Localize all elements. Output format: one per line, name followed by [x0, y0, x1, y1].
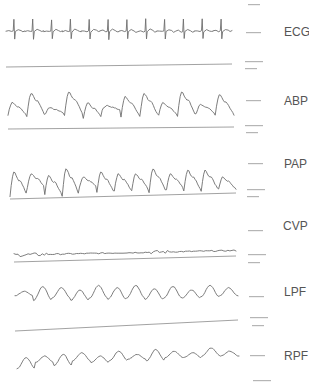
trace-pap	[10, 169, 236, 197]
scale-annotation-mark	[252, 325, 264, 326]
scale-annotation-mark	[246, 132, 258, 133]
channel-label-pap: PAP	[284, 157, 307, 171]
annotations-group	[245, 4, 271, 381]
scale-annotation-mark	[250, 317, 268, 318]
scale-annotation-mark	[248, 4, 260, 5]
channel-label-cvp: CVP	[283, 219, 308, 233]
scale-annotation-mark	[253, 380, 271, 381]
trace-lpf	[15, 285, 238, 300]
baseline-abp	[8, 127, 234, 129]
baseline-pap	[10, 193, 236, 199]
scale-annotation-mark	[248, 254, 266, 255]
baselines-group	[6, 64, 238, 331]
scale-annotation-mark	[246, 32, 261, 33]
channel-label-lpf: LPF	[284, 285, 306, 299]
trace-abp	[8, 92, 234, 118]
scale-annotation-mark	[245, 61, 263, 62]
trace-cvp	[14, 250, 236, 257]
scale-annotation-mark	[245, 68, 257, 69]
channel-label-rpf: RPF	[284, 349, 308, 363]
scale-annotation-mark	[249, 296, 264, 297]
baseline-ecg	[6, 64, 232, 67]
trace-rpf	[17, 348, 239, 369]
baseline-lpf	[15, 320, 238, 331]
scale-annotation-mark	[248, 262, 260, 263]
trace-ecg	[6, 19, 232, 40]
channel-label-ecg: ECG	[284, 25, 309, 39]
scale-annotation-mark	[245, 125, 263, 126]
channel-label-abp: ABP	[284, 94, 308, 108]
baseline-cvp	[14, 256, 236, 262]
scale-annotation-mark	[248, 230, 263, 231]
scale-annotation-mark	[247, 196, 259, 197]
scale-annotation-mark	[246, 100, 261, 101]
waveform-figure: ECG ABP PAP CVP LPF RPF	[0, 0, 309, 389]
scale-annotation-mark	[250, 355, 265, 356]
scale-annotation-mark	[248, 163, 263, 164]
scale-annotation-mark	[247, 189, 265, 190]
